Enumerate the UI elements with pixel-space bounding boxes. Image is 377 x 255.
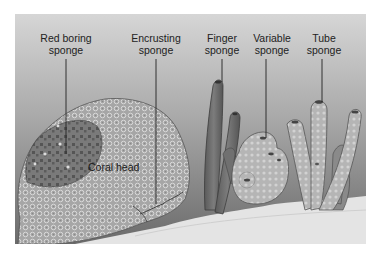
label-red-boring-sponge: Red boring sponge xyxy=(40,32,91,56)
label-tube-sponge: Tube sponge xyxy=(307,32,341,56)
label-line-2: sponge xyxy=(253,44,291,56)
label-line-1: Finger xyxy=(205,32,239,44)
label-line-1: Variable xyxy=(253,32,291,44)
label-line-2: sponge xyxy=(131,44,181,56)
label-finger-sponge: Finger sponge xyxy=(205,32,239,56)
label-line-2: sponge xyxy=(307,44,341,56)
label-line-1: Red boring xyxy=(40,32,91,44)
label-line-2: sponge xyxy=(40,44,91,56)
label-line-2: sponge xyxy=(205,44,239,56)
label-coral-head: Coral head xyxy=(88,161,139,173)
label-encrusting-sponge: Encrusting sponge xyxy=(131,32,181,56)
label-line-1: Encrusting xyxy=(131,32,181,44)
label-line-1: Tube xyxy=(307,32,341,44)
sponge-illustration: Red boring sponge Encrusting sponge Fing… xyxy=(15,14,366,244)
label-variable-sponge: Variable sponge xyxy=(253,32,291,56)
